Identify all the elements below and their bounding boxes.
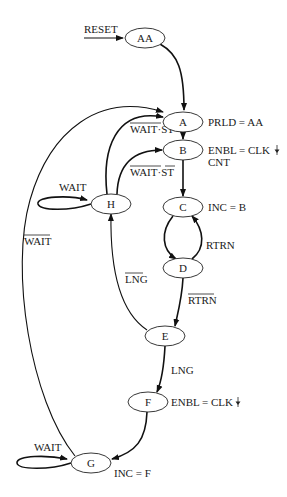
reset-label: RESET: [84, 23, 118, 35]
label-h-self: WAIT: [59, 181, 87, 193]
clock-falling-edge-icon-f: [236, 397, 241, 407]
svg-text:RTRN: RTRN: [188, 294, 217, 306]
state-f-output: ENBL = CLK: [171, 396, 233, 408]
clock-falling-edge-icon: [275, 145, 280, 155]
label-h-to-b: WAIT·ST: [130, 166, 175, 178]
reset-transition: RESET: [84, 23, 123, 38]
label-lng: LNG: [171, 364, 194, 376]
state-c-output: INC = B: [208, 201, 246, 213]
state-h: H: [91, 194, 131, 214]
svg-text:B: B: [179, 144, 186, 156]
svg-text:LNG: LNG: [125, 273, 148, 285]
svg-text:F: F: [145, 396, 151, 408]
label-not-lng: LNG: [125, 273, 148, 285]
svg-text:RTRN: RTRN: [206, 239, 235, 251]
state-g: G: [71, 453, 111, 473]
svg-text:LNG: LNG: [171, 364, 194, 376]
state-f: F: [128, 392, 168, 412]
svg-text:H: H: [107, 198, 115, 210]
svg-text:WAIT: WAIT: [24, 235, 52, 247]
svg-text:AA: AA: [137, 32, 153, 44]
label-g-to-a: WAIT: [24, 235, 52, 247]
state-e: E: [145, 326, 185, 346]
edge-c-to-d: [164, 216, 176, 259]
state-a-output: PRLD = AA: [208, 116, 263, 128]
svg-text:C: C: [179, 201, 186, 213]
svg-text:D: D: [179, 262, 187, 274]
edge-d-to-e: [175, 278, 183, 326]
state-d: D: [163, 258, 203, 278]
state-b: B: [163, 140, 203, 160]
edge-h-self-loop: [38, 197, 91, 209]
label-not-rtrn: RTRN: [188, 294, 217, 306]
edge-e-to-f: [157, 346, 165, 392]
svg-text:E: E: [162, 330, 169, 342]
state-g-output: INC = F: [114, 467, 151, 479]
state-aa: AA: [125, 28, 165, 48]
svg-text:A: A: [179, 116, 187, 128]
state-b-output-cnt: CNT: [208, 156, 230, 168]
edge-d-to-c: [192, 216, 202, 259]
edge-e-to-h: [111, 214, 147, 330]
svg-text:WAIT: WAIT: [34, 441, 62, 453]
svg-text:G: G: [87, 457, 95, 469]
edge-f-to-g: [112, 412, 147, 459]
edge-aa-to-a: [160, 44, 184, 110]
state-a: A: [163, 112, 203, 132]
state-b-output-enbl: ENBL = CLK: [208, 144, 270, 156]
edge-g-self-loop: [17, 456, 71, 468]
svg-text:WAIT: WAIT: [59, 181, 87, 193]
label-g-self: WAIT: [34, 441, 62, 453]
label-rtrn: RTRN: [206, 239, 235, 251]
state-diagram: RESET WAIT·ST: [0, 0, 287, 497]
state-c: C: [163, 197, 203, 217]
svg-text:WAIT·ST: WAIT·ST: [130, 166, 174, 178]
